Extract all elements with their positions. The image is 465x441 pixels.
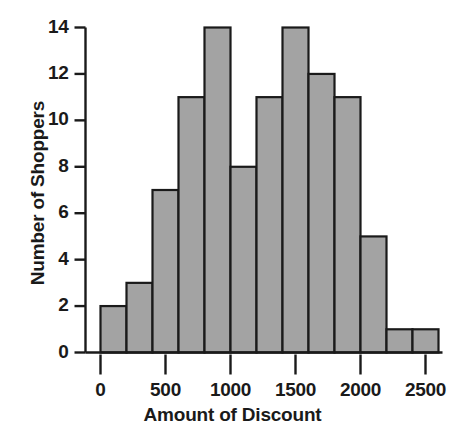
histogram-bar <box>101 306 127 352</box>
y-axis-ticks <box>75 28 86 353</box>
histogram-bar <box>283 28 309 353</box>
histogram-bar <box>361 236 387 352</box>
x-axis-ticks <box>101 355 426 375</box>
histogram-bar <box>335 97 361 352</box>
histogram-bar <box>309 74 335 353</box>
histogram-bar <box>179 97 205 352</box>
histogram-bar <box>205 28 231 353</box>
histogram-bar <box>153 190 179 353</box>
histogram-bar <box>231 167 257 353</box>
plot-area <box>0 0 465 441</box>
bar-series <box>101 28 439 353</box>
histogram-bar <box>387 329 413 352</box>
histogram-chart: Number of Shoppers Amount of Discount 02… <box>0 0 465 441</box>
histogram-bar <box>257 97 283 352</box>
histogram-bar <box>127 283 153 353</box>
histogram-bar <box>413 329 439 352</box>
